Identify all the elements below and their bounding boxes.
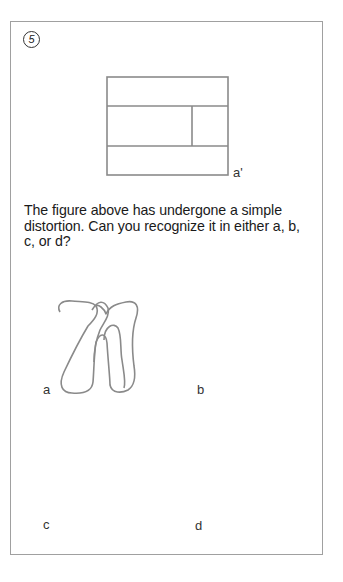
question-text: The figure above has undergone a simple … [24,203,304,250]
option-a-figure[interactable] [59,301,138,393]
reference-label: a' [233,165,243,180]
option-b-label[interactable]: b [197,382,204,397]
figures-canvas [0,0,343,582]
option-c-label[interactable]: c [43,517,50,532]
reference-figure [107,77,228,175]
option-a-label[interactable]: a [43,382,50,397]
option-d-label[interactable]: d [195,518,202,533]
